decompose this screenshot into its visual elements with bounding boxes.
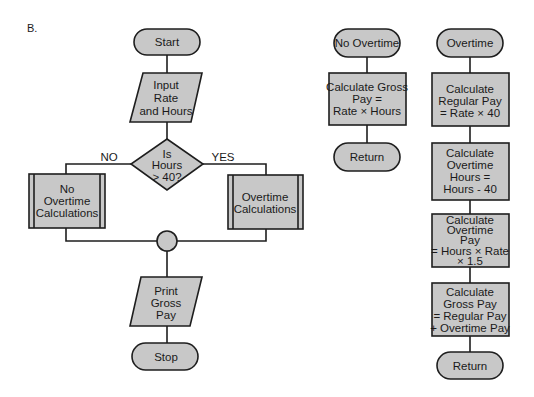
no-overtime-return-terminal: Return bbox=[334, 143, 400, 171]
om-step3-line-5: × 1.5 bbox=[457, 255, 483, 267]
connector-decision-no bbox=[66, 164, 131, 174]
calculate-overtime-hours-process: Calculate Overtime Hours = Hours - 40 bbox=[432, 143, 509, 200]
branch-no-label: NO bbox=[100, 151, 117, 163]
overtime-entry-label: Overtime bbox=[447, 37, 494, 49]
ot-line-2: Calculations bbox=[234, 203, 297, 215]
no-overtime-module: No Overtime Calculate Gross Pay = Rate ×… bbox=[326, 29, 408, 171]
overtime-entry-terminal: Overtime bbox=[437, 29, 503, 57]
figure-label: B. bbox=[27, 22, 37, 34]
om-step1-line-3: = Rate × 40 bbox=[440, 107, 500, 119]
flowchart-canvas: B. Start Input Rate and Hours Is Hours >… bbox=[0, 0, 534, 397]
print-line-1: Print bbox=[154, 285, 178, 297]
calculate-regular-pay-process: Calculate Regular Pay = Rate × 40 bbox=[432, 73, 509, 126]
decision-hours-over-40: Is Hours > 40? bbox=[131, 139, 203, 190]
print-line-2: Gross bbox=[151, 297, 182, 309]
no-overtime-entry-terminal: No Overtime bbox=[334, 29, 400, 57]
stop-terminal: Stop bbox=[132, 343, 198, 370]
nom-process-line-3: Rate × Hours bbox=[333, 105, 401, 117]
om-step4-line-3: = Regular Pay bbox=[433, 310, 506, 322]
om-step2-line-1: Calculate bbox=[446, 147, 494, 159]
input-line-1: Input bbox=[153, 79, 179, 91]
overtime-return-label: Return bbox=[453, 360, 488, 372]
om-step2-line-2: Overtime bbox=[447, 159, 494, 171]
connector-no-merge bbox=[66, 228, 157, 241]
calculate-overtime-pay-process: Calculate Overtime Pay = Hours × Rate × … bbox=[431, 214, 509, 267]
stop-label: Stop bbox=[154, 351, 178, 363]
overtime-module: Overtime Calculate Regular Pay = Rate × … bbox=[430, 29, 510, 379]
nom-process-line-2: Pay = bbox=[352, 93, 382, 105]
input-line-2: Rate bbox=[154, 92, 178, 104]
om-step1-line-1: Calculate bbox=[446, 83, 494, 95]
main-flow: Start Input Rate and Hours Is Hours > 40… bbox=[29, 29, 303, 370]
overtime-calculations-subprocess: Overtime Calculations bbox=[228, 175, 303, 229]
om-step4-line-1: Calculate bbox=[446, 286, 494, 298]
print-gross-pay: Print Gross Pay bbox=[130, 277, 202, 326]
merge-connector bbox=[157, 231, 177, 251]
ot-line-1: Overtime bbox=[242, 191, 289, 203]
input-line-3: and Hours bbox=[139, 105, 192, 117]
no-ot-line-2: Overtime bbox=[44, 195, 91, 207]
decision-line-2: Hours bbox=[152, 159, 183, 171]
connector-yes-merge bbox=[177, 229, 266, 241]
overtime-return-terminal: Return bbox=[437, 352, 503, 379]
om-step1-line-2: Regular Pay bbox=[438, 95, 502, 107]
no-ot-line-1: No bbox=[60, 183, 75, 195]
calculate-gross-pay-overtime-process: Calculate Gross Pay = Regular Pay + Over… bbox=[430, 283, 510, 336]
branch-yes-label: YES bbox=[211, 151, 234, 163]
no-overtime-calculations-subprocess: No Overtime Calculations bbox=[29, 174, 105, 228]
nom-process-line-1: Calculate Gross bbox=[326, 81, 408, 93]
no-overtime-return-label: Return bbox=[350, 151, 385, 163]
connector-decision-yes bbox=[203, 164, 266, 175]
start-label: Start bbox=[155, 36, 180, 48]
calculate-gross-pay-process: Calculate Gross Pay = Rate × Hours bbox=[326, 73, 408, 125]
om-step2-line-4: Hours - 40 bbox=[443, 183, 497, 195]
print-line-3: Pay bbox=[156, 309, 176, 321]
start-terminal: Start bbox=[134, 29, 200, 55]
om-step2-line-3: Hours = bbox=[450, 171, 491, 183]
no-overtime-entry-label: No Overtime bbox=[335, 37, 400, 49]
no-ot-line-3: Calculations bbox=[36, 207, 99, 219]
om-step4-line-4: + Overtime Pay bbox=[430, 322, 510, 334]
input-rate-hours: Input Rate and Hours bbox=[130, 73, 202, 122]
om-step4-line-2: Gross Pay bbox=[443, 298, 497, 310]
decision-line-3: > 40? bbox=[152, 171, 181, 183]
